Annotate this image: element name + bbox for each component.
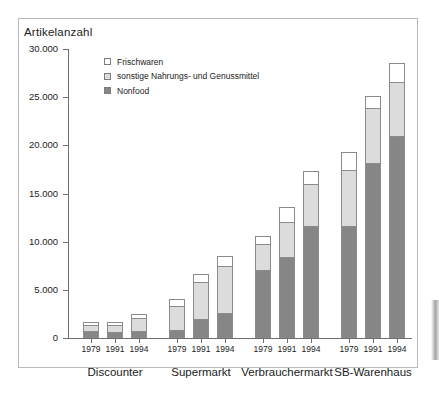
bar-segment-nonfood (341, 226, 357, 338)
bar-segment-nonfood (389, 136, 405, 338)
bar-segment-sonstige (279, 222, 295, 257)
x-tick (115, 338, 116, 343)
x-tick (201, 338, 202, 343)
bar-segment-nonfood (255, 270, 271, 338)
bar-segment-nonfood (169, 330, 185, 338)
bar-segment-nonfood (131, 331, 147, 338)
bar-segment-sonstige (193, 282, 209, 319)
bar-sb-warenhaus-1994 (389, 63, 405, 338)
bar-segment-frisch (365, 96, 381, 108)
bar-segment-nonfood (83, 331, 99, 338)
bar-supermarkt-1991 (193, 274, 209, 338)
bar-verbrauchermarkt-1991 (279, 207, 295, 338)
bar-segment-frisch (279, 207, 295, 222)
bar-verbrauchermarkt-1994 (303, 171, 319, 338)
bar-segment-frisch (341, 152, 357, 170)
x-year-label: 1994 (208, 344, 242, 354)
x-tick (349, 338, 350, 343)
bar-segment-frisch (303, 171, 319, 184)
bar-segment-sonstige (389, 82, 405, 136)
bar-discounter-1994 (131, 314, 147, 338)
bar-segment-sonstige (107, 325, 123, 333)
bar-segment-frisch (217, 256, 233, 266)
y-tick-label: 5.000 (2, 284, 58, 295)
y-tick (63, 338, 69, 339)
bar-segment-sonstige (169, 306, 185, 330)
bar-segment-sonstige (83, 325, 99, 332)
bar-segment-frisch (169, 299, 185, 306)
bar-segment-nonfood (303, 226, 319, 338)
bar-segment-nonfood (279, 257, 295, 338)
x-tick (397, 338, 398, 343)
bar-segment-sonstige (365, 108, 381, 163)
x-tick (177, 338, 178, 343)
y-tick-label: 30.000 (2, 43, 58, 54)
bar-supermarkt-1979 (169, 299, 185, 338)
bar-sb-warenhaus-1979 (341, 152, 357, 338)
x-year-label: 1994 (294, 344, 328, 354)
bar-segment-frisch (193, 274, 209, 282)
x-axis-line (68, 338, 412, 339)
x-tick (139, 338, 140, 343)
plot-area (68, 49, 412, 338)
bar-segment-sonstige (217, 266, 233, 313)
x-tick (373, 338, 374, 343)
bar-supermarkt-1994 (217, 256, 233, 338)
x-year-label: 1994 (122, 344, 156, 354)
bar-segment-frisch (255, 236, 271, 244)
x-tick (91, 338, 92, 343)
bar-segment-nonfood (365, 163, 381, 338)
bar-segment-frisch (389, 63, 405, 81)
bar-verbrauchermarkt-1979 (255, 236, 271, 338)
bar-segment-sonstige (255, 244, 271, 270)
bar-discounter-1979 (83, 322, 99, 338)
y-tick-label: 25.000 (2, 91, 58, 102)
x-tick (287, 338, 288, 343)
x-group-label: SB-Warenhaus (313, 366, 433, 378)
page-edge-artifact (431, 300, 439, 360)
chart-figure: Artikelanzahl Frischwaren sonstige Nahru… (0, 0, 439, 396)
bar-segment-sonstige (303, 184, 319, 226)
y-tick-label: 10.000 (2, 236, 58, 247)
y-axis-title: Artikelanzahl (24, 26, 92, 38)
x-tick (311, 338, 312, 343)
bar-segment-nonfood (193, 319, 209, 338)
bar-segment-sonstige (341, 170, 357, 226)
y-tick-label: 0 (2, 332, 58, 343)
x-year-label: 1994 (380, 344, 414, 354)
y-tick-label: 15.000 (2, 188, 58, 199)
bar-sb-warenhaus-1991 (365, 96, 381, 338)
x-tick (225, 338, 226, 343)
x-tick (263, 338, 264, 343)
bar-discounter-1991 (107, 322, 123, 338)
bar-segment-sonstige (131, 318, 147, 331)
bar-segment-nonfood (217, 313, 233, 338)
y-tick-label: 20.000 (2, 139, 58, 150)
